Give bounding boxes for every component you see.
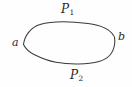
label-point-a: a [12,37,19,48]
label-upper-path-base: P [61,2,69,16]
label-point-b: b [118,31,125,42]
label-upper-path: P1 [61,3,74,17]
label-lower-path-subscript: 2 [78,74,83,83]
closed-curve-figure: P1 P2 a b [0,0,132,87]
lower-path-curve [24,38,115,64]
label-upper-path-subscript: 1 [69,8,74,17]
upper-path-curve [24,22,115,45]
label-lower-path: P2 [70,69,83,83]
label-lower-path-base: P [70,68,78,82]
